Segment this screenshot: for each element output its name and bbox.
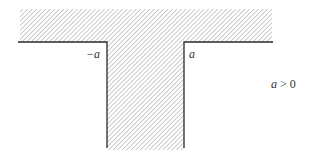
label-minus-a: −a (86, 48, 100, 60)
hatched-region (20, 9, 272, 150)
label-a: a (189, 48, 195, 60)
condition-a-positive: a > 0 (271, 78, 296, 90)
boundary-right (184, 42, 273, 148)
condition-relation: > 0 (277, 77, 296, 91)
